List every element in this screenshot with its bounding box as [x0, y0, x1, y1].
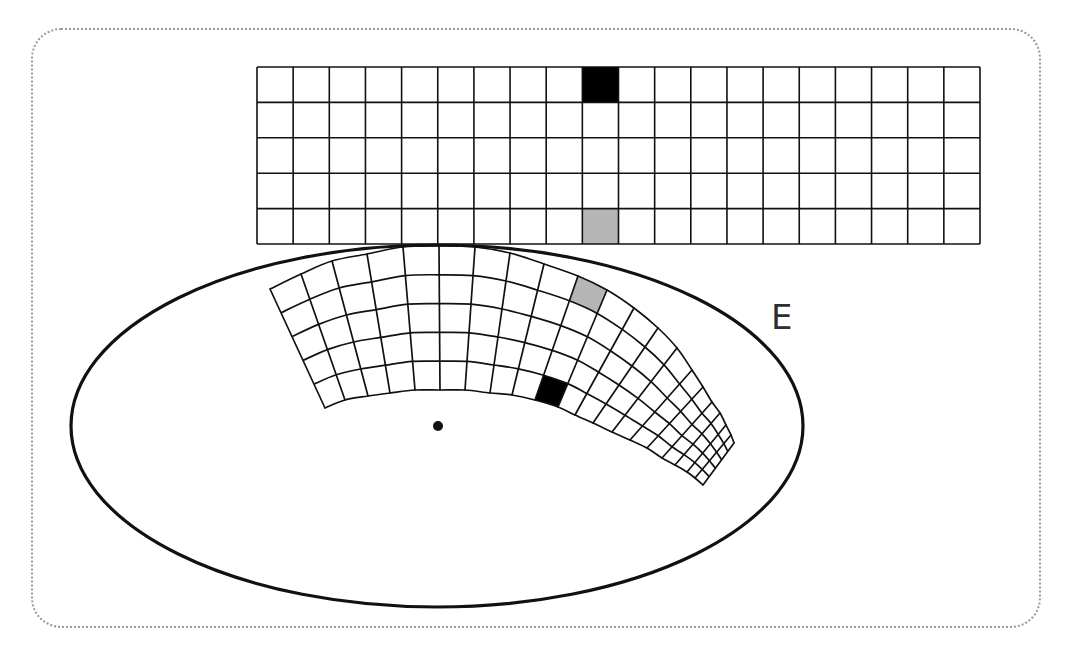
- ellipse-label: E: [771, 300, 792, 334]
- curved-cell-black: [535, 375, 568, 407]
- center-dot: [433, 421, 443, 431]
- rect-cell-gray: [582, 209, 618, 244]
- curved-cell-gray: [569, 276, 607, 313]
- rectangular-grid: [257, 67, 980, 244]
- diagram-canvas: [0, 0, 1071, 648]
- curved-grid: [270, 246, 734, 485]
- rect-cell-black: [582, 67, 618, 102]
